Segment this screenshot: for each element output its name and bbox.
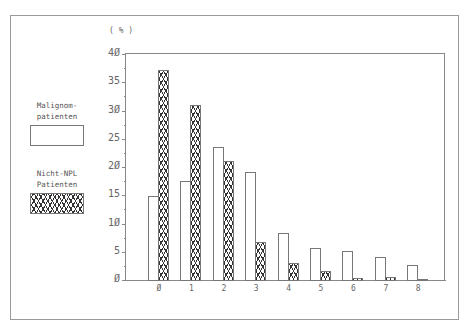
y-tick-label: 2Ø: [100, 160, 120, 171]
y-minor-tick: [124, 125, 126, 126]
bar-nicht-npl: [288, 263, 299, 281]
legend-text: Malignom-: [27, 100, 87, 111]
bar-malignom: [342, 251, 353, 281]
y-tick-mark: [122, 139, 126, 140]
y-minor-tick: [124, 96, 126, 97]
x-tick-label: 7: [378, 284, 394, 293]
legend-text: Nicht-NPL: [27, 168, 87, 179]
x-tick-label: 3: [248, 284, 264, 293]
bar-nicht-npl: [190, 105, 201, 281]
y-tick-label: Ø: [100, 273, 120, 284]
y-tick-label: 4Ø: [100, 47, 120, 58]
legend-text: patienten: [27, 111, 87, 122]
x-tick-label: Ø: [151, 284, 167, 293]
bar-nicht-npl: [385, 277, 396, 281]
legend-label-malignom: Malignom- patienten: [27, 100, 87, 122]
y-tick-label: 3Ø: [100, 104, 120, 115]
bar-nicht-npl: [320, 271, 331, 281]
y-tick-label: 1Ø: [100, 217, 120, 228]
y-minor-tick: [124, 209, 126, 210]
y-tick-mark: [122, 280, 126, 281]
x-tick-label: 8: [410, 284, 426, 293]
y-unit-label: ( % ): [109, 26, 133, 35]
y-tick-mark: [122, 54, 126, 55]
bar-nicht-npl: [352, 278, 363, 281]
x-tick-label: 2: [216, 284, 232, 293]
y-tick-label: 5: [100, 245, 120, 256]
x-tick-label: 6: [345, 284, 361, 293]
bar-nicht-npl: [255, 242, 266, 281]
y-minor-tick: [124, 238, 126, 239]
legend-text: Patienten: [27, 179, 87, 190]
bar-nicht-npl: [417, 279, 428, 281]
y-tick-mark: [122, 195, 126, 196]
legend-swatch-hatched: [30, 193, 84, 214]
bar-nicht-npl: [158, 70, 169, 281]
y-tick-mark: [122, 82, 126, 83]
x-tick-label: 5: [313, 284, 329, 293]
y-tick-mark: [122, 224, 126, 225]
y-tick-label: 15: [100, 188, 120, 199]
legend-label-nichtnpl: Nicht-NPL Patienten: [27, 168, 87, 190]
x-tick-label: 1: [183, 284, 199, 293]
y-tick-mark: [122, 111, 126, 112]
y-minor-tick: [124, 266, 126, 267]
y-tick-label: 25: [100, 132, 120, 143]
legend-swatch-open: [30, 125, 84, 146]
y-minor-tick: [124, 68, 126, 69]
y-tick-mark: [122, 167, 126, 168]
y-minor-tick: [124, 153, 126, 154]
bar-nicht-npl: [223, 161, 234, 281]
y-tick-mark: [122, 252, 126, 253]
x-tick-label: 4: [281, 284, 297, 293]
y-minor-tick: [124, 181, 126, 182]
y-tick-label: 35: [100, 75, 120, 86]
